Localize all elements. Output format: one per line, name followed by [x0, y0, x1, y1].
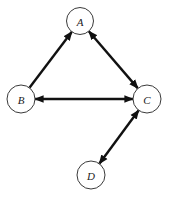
node-a: A	[67, 8, 94, 35]
node-c: C	[133, 85, 161, 113]
edge-a-c-arrow	[89, 31, 138, 88]
node-d: D	[77, 161, 105, 189]
graph-diagram: ABCD	[0, 0, 170, 199]
node-label: C	[143, 94, 151, 106]
edge-c-d-arrow	[99, 110, 138, 163]
edges-layer	[29, 31, 138, 163]
node-label: D	[86, 170, 95, 182]
node-label: A	[76, 16, 84, 28]
node-b: B	[7, 85, 35, 113]
edge-b-a-arrow	[29, 32, 71, 88]
node-label: B	[18, 94, 25, 106]
